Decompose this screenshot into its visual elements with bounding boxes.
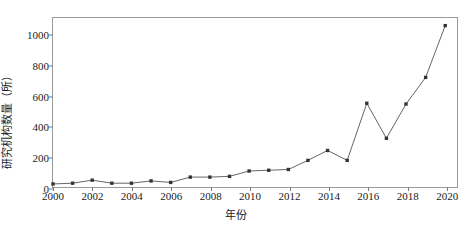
x-tick-label: 2020 (436, 191, 458, 202)
x-tick-label: 2010 (239, 191, 261, 202)
y-tick-label: 400 (33, 122, 50, 133)
x-tick-mark (132, 187, 133, 191)
plot-area: 02004006008001000 2000200220042006200820… (52, 17, 458, 188)
series-line (53, 26, 445, 184)
data-point (208, 175, 211, 178)
x-tick-label: 2012 (279, 191, 301, 202)
y-tick-label: 200 (33, 153, 50, 164)
y-tick-label: 600 (33, 91, 50, 102)
data-point (71, 182, 74, 185)
x-tick-mark (408, 187, 409, 191)
data-point (365, 102, 368, 105)
data-point (51, 182, 54, 185)
data-point (267, 169, 270, 172)
data-point (404, 102, 407, 105)
x-tick-mark (53, 187, 54, 191)
x-tick-mark (171, 187, 172, 191)
data-point (326, 149, 329, 152)
x-axis-title: 年份 (0, 206, 472, 222)
data-point (149, 179, 152, 182)
x-tick-label: 2008 (200, 191, 222, 202)
data-point (444, 24, 447, 27)
x-tick-label: 2006 (160, 191, 182, 202)
data-point (287, 168, 290, 171)
y-tick-label: 800 (33, 60, 50, 71)
data-point (345, 159, 348, 162)
x-tick-label: 2004 (121, 191, 143, 202)
data-point (424, 76, 427, 79)
x-tick-mark (447, 187, 448, 191)
line-series (53, 18, 457, 187)
y-axis-title: 研究机构数量（所） (0, 0, 14, 239)
x-tick-label: 2014 (318, 191, 340, 202)
x-tick-mark (290, 187, 291, 191)
x-tick-mark (92, 187, 93, 191)
x-tick-mark (329, 187, 330, 191)
data-point (169, 181, 172, 184)
data-point (228, 175, 231, 178)
data-point (130, 182, 133, 185)
y-tick-label: 1000 (27, 29, 49, 40)
x-tick-label: 2016 (357, 191, 379, 202)
data-point (385, 137, 388, 140)
x-tick-mark (211, 187, 212, 191)
data-point (306, 159, 309, 162)
data-point (91, 178, 94, 181)
data-point (110, 182, 113, 185)
x-tick-mark (368, 187, 369, 191)
x-tick-label: 2018 (397, 191, 419, 202)
data-point (247, 169, 250, 172)
chart-figure: 研究机构数量（所） 02004006008001000 200020022004… (0, 0, 472, 239)
data-point (189, 175, 192, 178)
x-tick-mark (250, 187, 251, 191)
series-markers (51, 24, 447, 186)
x-tick-label: 2002 (81, 191, 103, 202)
x-tick-label: 2000 (42, 191, 64, 202)
